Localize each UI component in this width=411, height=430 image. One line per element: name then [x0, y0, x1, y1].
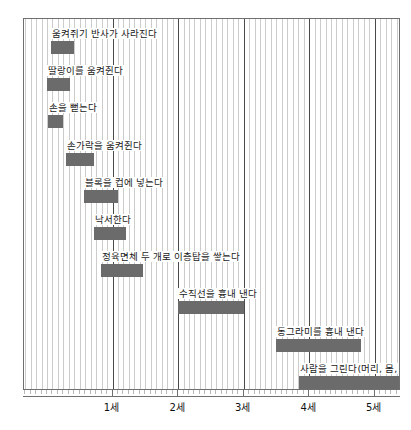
gridline-minor: [391, 19, 392, 389]
axis-tick-minor: [352, 390, 353, 394]
gridline-minor: [36, 19, 37, 389]
axis-tick-minor: [41, 390, 42, 394]
axis-tick-label: 2세: [169, 399, 184, 414]
axis-tick-minor: [166, 390, 167, 394]
bar-label: 블록을 컵에 넣는다: [84, 177, 164, 188]
axis-tick-minor: [275, 390, 276, 394]
milestone-bar: [84, 190, 119, 203]
axis-tick-minor: [254, 390, 255, 394]
axis-tick-minor: [357, 390, 358, 394]
x-axis-line: [23, 396, 400, 397]
bar-label: 수직선을 흉내 낸다: [178, 288, 258, 299]
axis-tick-minor: [79, 390, 80, 394]
milestone-bar: [178, 301, 244, 314]
gridline-minor: [369, 19, 370, 389]
gridline-minor: [227, 19, 228, 389]
axis-tick-minor: [73, 390, 74, 394]
gridline-minor: [249, 19, 250, 389]
gridline-minor: [156, 19, 157, 389]
axis-tick-minor: [90, 390, 91, 394]
gridline-minor: [162, 19, 163, 389]
axis-tick-minor: [237, 390, 238, 394]
axis-tick-minor: [57, 390, 58, 394]
axis-tick-minor: [221, 390, 222, 394]
axis-tick-label: 5세: [366, 399, 381, 414]
axis-tick-major: [243, 390, 244, 397]
milestone-bar: [101, 264, 143, 277]
axis-tick-minor: [155, 390, 156, 394]
axis-tick-minor: [270, 390, 271, 394]
milestone-bar: [66, 153, 94, 166]
bar-label: 사람을 그린다(머리, 몸, 팔, 다리): [299, 363, 400, 374]
axis-tick-minor: [341, 390, 342, 394]
axis-tick-major: [374, 390, 375, 397]
axis-tick-minor: [281, 390, 282, 394]
axis-tick-minor: [51, 390, 52, 394]
axis-tick-minor: [303, 390, 304, 394]
axis-tick-minor: [232, 390, 233, 394]
plot-area: 움켜쥐기 반사가 사라진다딸랑이를 움켜쥔다손을 뻗는다손가락을 움켜쥔다블록을…: [23, 18, 400, 390]
axis-tick-minor: [297, 390, 298, 394]
axis-tick-minor: [292, 390, 293, 394]
gridline-minor: [260, 19, 261, 389]
bar-label: 정육면체 두 개로 이층탑을 쌓는다: [101, 251, 241, 262]
axis-tick-minor: [210, 390, 211, 394]
axis-tick-minor: [330, 390, 331, 394]
gridline-minor: [42, 19, 43, 389]
milestone-bar: [48, 115, 62, 128]
axis-tick-minor: [68, 390, 69, 394]
gridline-minor: [200, 19, 201, 389]
axis-tick-minor: [139, 390, 140, 394]
axis-tick-major: [308, 390, 309, 397]
axis-tick-label: 3세: [235, 399, 250, 414]
axis-tick-minor: [199, 390, 200, 394]
gridline-minor: [140, 19, 141, 389]
axis-tick-minor: [183, 390, 184, 394]
axis-tick-minor: [133, 390, 134, 394]
axis-tick-minor: [379, 390, 380, 394]
axis-tick-minor: [325, 390, 326, 394]
axis-tick-minor: [396, 390, 397, 394]
gridline-minor: [380, 19, 381, 389]
gridline-minor: [173, 19, 174, 389]
gridline-major: [244, 19, 245, 389]
gridline-minor: [233, 19, 234, 389]
axis-tick-minor: [30, 390, 31, 394]
gridline-minor: [129, 19, 130, 389]
bar-label: 손가락을 움켜쥔다: [66, 140, 143, 151]
axis-tick-minor: [368, 390, 369, 394]
axis-tick-minor: [106, 390, 107, 394]
axis-tick-minor: [150, 390, 151, 394]
axis-tick-minor: [193, 390, 194, 394]
gridline-minor: [397, 19, 398, 389]
gridline-minor: [271, 19, 272, 389]
axis-tick-minor: [24, 390, 25, 394]
gridline-minor: [145, 19, 146, 389]
gridline-minor: [189, 19, 190, 389]
axis-tick-minor: [122, 390, 123, 394]
gridline-minor: [151, 19, 152, 389]
milestone-bar: [276, 339, 361, 352]
gridline-minor: [194, 19, 195, 389]
axis-tick-minor: [335, 390, 336, 394]
milestone-bar: [94, 227, 127, 240]
gridline-minor: [134, 19, 135, 389]
gridline-minor: [167, 19, 168, 389]
axis-tick-minor: [264, 390, 265, 394]
clipped-header-text: [10, 0, 130, 8]
axis-tick-minor: [62, 390, 63, 394]
milestone-bar: [51, 41, 74, 54]
bar-label: 손을 뻗는다: [48, 102, 98, 113]
gridline-minor: [211, 19, 212, 389]
milestone-bar: [47, 78, 71, 91]
axis-tick-minor: [188, 390, 189, 394]
axis-tick-major: [177, 390, 178, 397]
axis-tick-minor: [101, 390, 102, 394]
axis-tick-minor: [84, 390, 85, 394]
gridline-minor: [222, 19, 223, 389]
gridline-minor: [184, 19, 185, 389]
axis-tick-minor: [390, 390, 391, 394]
gridline-minor: [205, 19, 206, 389]
axis-tick-minor: [172, 390, 173, 394]
axis-tick-label: 1세: [104, 399, 119, 414]
